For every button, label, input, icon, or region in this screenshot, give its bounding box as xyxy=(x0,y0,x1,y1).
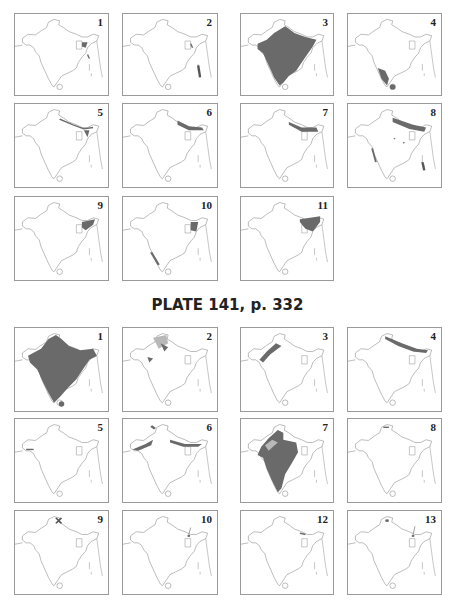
map-number: 2 xyxy=(207,330,213,342)
range-map: 9 xyxy=(14,510,109,595)
range-map: 4 xyxy=(347,13,442,96)
map-number: 10 xyxy=(201,199,212,211)
map-number: 1 xyxy=(98,16,104,28)
map-number: 5 xyxy=(98,421,104,433)
range-map: 7 xyxy=(240,103,334,188)
range-map: 10 xyxy=(122,196,218,281)
range-map: 2 xyxy=(122,13,218,96)
range-map: 3 xyxy=(240,327,334,412)
map-number: 4 xyxy=(431,16,437,28)
map-number: 1 xyxy=(98,330,104,342)
range-map: 7 xyxy=(240,418,334,503)
map-number: 2 xyxy=(207,16,213,28)
map-number: 11 xyxy=(318,199,328,211)
range-map: 1 xyxy=(14,327,109,412)
map-number: 6 xyxy=(207,421,213,433)
range-map: 12 xyxy=(240,510,334,595)
range-map: 5 xyxy=(14,103,109,188)
map-number: 3 xyxy=(323,330,329,342)
map-number: 4 xyxy=(431,330,437,342)
range-map: 9 xyxy=(14,196,109,281)
range-map: 8 xyxy=(347,418,442,503)
map-number: 10 xyxy=(201,513,212,525)
map-number: 13 xyxy=(425,513,436,525)
range-map: 6 xyxy=(122,103,218,188)
map-number: 7 xyxy=(323,106,329,118)
map-number: 6 xyxy=(207,106,213,118)
map-number: 3 xyxy=(323,16,329,28)
range-map: 8 xyxy=(347,103,442,188)
map-number: 8 xyxy=(431,106,437,118)
range-map: 13 xyxy=(347,510,442,595)
map-number: 9 xyxy=(98,513,104,525)
map-number: 8 xyxy=(431,421,437,433)
range-map: 5 xyxy=(14,418,109,503)
map-number: 12 xyxy=(317,513,328,525)
range-map: 10 xyxy=(122,510,218,595)
map-number: 7 xyxy=(323,421,329,433)
range-map: 4 xyxy=(347,327,442,412)
range-map: 3 xyxy=(240,13,334,96)
range-map: 2 xyxy=(122,327,218,412)
map-number: 9 xyxy=(98,199,104,211)
range-map: 6 xyxy=(122,418,218,503)
map-number: 5 xyxy=(98,106,104,118)
range-map: 1 xyxy=(14,13,109,96)
plate-title: PLATE 141, p. 332 xyxy=(0,296,455,314)
range-map: 11 xyxy=(240,196,334,281)
